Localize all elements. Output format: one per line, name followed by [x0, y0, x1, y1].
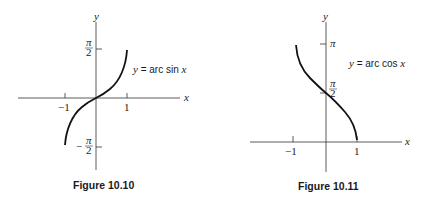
equation-label: y = arc sin x [132, 63, 187, 75]
x-tick-label-neg1: −1 [285, 145, 297, 157]
equation-label: y = arc cos x [348, 57, 405, 69]
figure-arccos: x y −1 1 π π 2 y = arc cos x Figure 10.1… [250, 10, 410, 192]
x-axis-label: x [404, 135, 410, 147]
y-axis-label: y [93, 10, 99, 22]
y-tick-label-neg-pi-half: − π 2 [76, 134, 93, 156]
y-tick-label-pi-half: π 2 [85, 36, 93, 58]
figure-caption: Figure 10.10 [73, 179, 134, 191]
arccos-curve [296, 45, 357, 140]
figures-canvas: x y −1 1 π 2 − π 2 y = arc sin x Figure … [0, 0, 421, 201]
y-axis-label: y [322, 10, 328, 22]
y-tick-label-pi: π [330, 37, 336, 49]
x-tick-label-pos1: 1 [124, 101, 130, 113]
svg-text:−: − [76, 140, 82, 152]
x-tick-label-pos1: 1 [354, 145, 360, 157]
svg-text:2: 2 [86, 46, 92, 58]
x-tick-label-neg1: −1 [58, 101, 70, 113]
svg-text:2: 2 [86, 144, 92, 156]
figure-caption: Figure 10.11 [298, 180, 359, 192]
x-axis-label: x [183, 91, 189, 103]
figure-arcsin: x y −1 1 π 2 − π 2 y = arc sin x Figure … [18, 10, 189, 191]
